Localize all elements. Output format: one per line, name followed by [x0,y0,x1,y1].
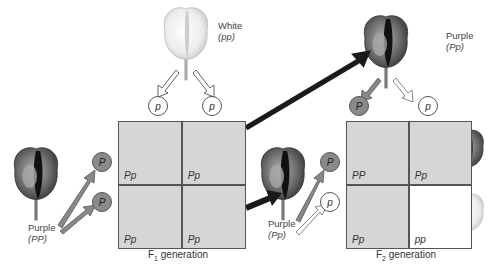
allele-text: p [155,101,161,112]
genotype-label: pp [415,234,426,245]
f2-gamete-top-1: P [349,96,369,116]
purple-parent-flower [14,148,57,221]
f1-gamete-left-2: P [92,192,112,212]
f1-cell: Pp [183,122,245,184]
genotype-label: Pp [352,234,364,245]
genotype-label: Pp [188,170,200,181]
white-genotype: (pp) [218,31,235,42]
f2-cell: pp [410,186,471,248]
f2-gamete-left-1: P [320,152,340,172]
f2-gamete-top-2: p [418,96,438,116]
f2-cell: PP [347,122,408,184]
label-text: Purple [446,30,473,41]
f1-cell: Pp [119,122,181,184]
purple-label-text: Purple [28,222,55,233]
allele-text: P [99,157,106,168]
white-label-text: White [218,20,242,31]
f1-gamete-top-1: p [148,96,168,116]
f2-generation-label: F2 generation [376,249,436,262]
genotype: (Pp) [446,41,464,52]
f1-gamete-top-2: p [202,96,222,116]
purple-parent-label: Purple (PP) [28,222,55,244]
f1-cell: Pp [119,186,181,248]
allele-text: p [209,101,215,112]
f2-gamete-left-2: p [320,192,340,212]
f1-gamete-left-1: P [92,152,112,172]
f1-top-parent-label: Purple (Pp) [446,30,473,52]
allele-text: P [327,157,334,168]
f1-punnett-square: Pp Pp Pp Pp [118,121,246,249]
white-parent-flower [164,8,207,81]
f2-cell: Pp [410,122,471,184]
f2-cell: Pp [347,186,408,248]
genotype-label: Pp [124,234,136,245]
f1-generation-label: F1 generation [148,249,208,262]
f1-left-parent-label: Purple (Pp) [268,218,295,240]
white-parent-label: White (pp) [218,20,242,42]
f1-left-flower [261,148,304,221]
genotype-label: Pp [415,170,427,181]
allele-text: p [327,197,333,208]
purple-genotype: (PP) [28,233,47,244]
genotype-label: Pp [188,234,200,245]
genotype-label: PP [352,170,365,181]
genotype-label: Pp [124,170,136,181]
f1-cell: Pp [183,186,245,248]
genotype: (Pp) [268,229,286,240]
f2-punnett-square: PP Pp Pp pp [346,121,472,249]
label-text: Purple [268,218,295,229]
allele-text: p [425,101,431,112]
f1-top-flower [364,16,407,89]
allele-text: P [356,101,363,112]
allele-text: P [99,197,106,208]
